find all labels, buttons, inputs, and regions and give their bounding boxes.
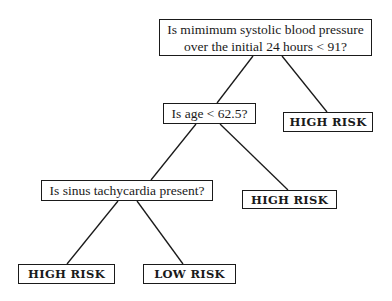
- high-risk-outcome-3: HIGH RISK: [18, 264, 115, 284]
- high-risk-label: HIGH RISK: [28, 267, 105, 281]
- root-question-line-2: over the initial 24 hours < 91?: [167, 38, 364, 55]
- edge-age-to-sinus: [151, 124, 196, 180]
- edge-root-to-high-risk-1: [282, 56, 327, 112]
- age-question-node: Is age < 62.5?: [163, 103, 256, 124]
- sinus-tachycardia-question-node: Is sinus tachycardia present?: [41, 180, 213, 201]
- age-question-label: Is age < 62.5?: [172, 106, 248, 122]
- edge-root-to-age: [217, 56, 253, 103]
- edge-sinus-to-high-risk-3: [67, 201, 118, 264]
- high-risk-outcome-1: HIGH RISK: [283, 112, 373, 132]
- low-risk-label: LOW RISK: [154, 267, 225, 281]
- root-question-line-1: Is mimimum systolic blood pressure: [167, 21, 364, 38]
- high-risk-outcome-2: HIGH RISK: [242, 190, 337, 209]
- high-risk-label: HIGH RISK: [251, 193, 328, 207]
- low-risk-outcome: LOW RISK: [143, 264, 236, 284]
- root-question-node: Is mimimum systolic blood pressure over …: [159, 19, 372, 56]
- edge-age-to-high-risk-2: [220, 124, 288, 190]
- sinus-question-label: Is sinus tachycardia present?: [50, 183, 205, 199]
- edge-sinus-to-low-risk: [137, 201, 183, 264]
- high-risk-label: HIGH RISK: [290, 115, 367, 129]
